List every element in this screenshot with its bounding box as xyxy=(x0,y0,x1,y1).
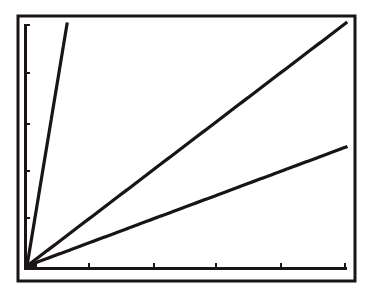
plot-lines xyxy=(27,23,346,266)
origin-marker xyxy=(25,263,37,269)
steep-line xyxy=(27,24,67,266)
shallow-line xyxy=(27,147,346,266)
calculator-graph-screen xyxy=(0,0,374,292)
middle-line xyxy=(27,23,346,266)
